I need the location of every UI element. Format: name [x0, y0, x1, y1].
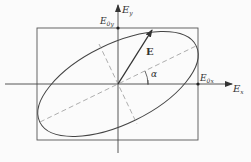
y-axis-label: Ey	[121, 4, 133, 17]
alpha-angle-arc	[145, 71, 148, 84]
e0x-label: E0x	[199, 73, 214, 84]
polarization-ellipse-diagram: Ey Ex E0y E0x E α	[0, 0, 251, 162]
e-vector-label: E	[146, 46, 154, 57]
x-axis-label: Ex	[232, 83, 244, 95]
alpha-label: α	[151, 69, 157, 79]
e0y-label: E0y	[99, 16, 114, 28]
e0y-point	[116, 26, 119, 29]
diagram-svg: Ey Ex E0y E0x E α	[0, 0, 251, 162]
